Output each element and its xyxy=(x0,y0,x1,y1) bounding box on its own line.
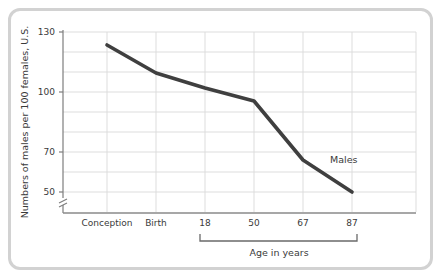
y-axis-title: Numbers of males per 100 females, U.S. xyxy=(19,26,30,219)
xtick-label-conception: Conception xyxy=(82,218,133,228)
ytick-label-50: 50 xyxy=(44,187,56,197)
ytick-label-100: 100 xyxy=(38,87,55,97)
series-label-males: Males xyxy=(330,154,358,165)
age-range-bracket xyxy=(200,234,357,241)
horizontal-gridlines xyxy=(63,32,416,192)
xtick-label-67: 67 xyxy=(297,218,308,228)
x-axis-title: Age in years xyxy=(249,247,308,258)
vertical-gridlines xyxy=(107,32,416,212)
ytick-label-70: 70 xyxy=(44,147,56,157)
xtick-label-18: 18 xyxy=(199,218,211,228)
series-line-males xyxy=(107,45,352,192)
xtick-label-87: 87 xyxy=(346,218,357,228)
xtick-label-50: 50 xyxy=(248,218,260,228)
ytick-label-130: 130 xyxy=(38,27,55,37)
line-chart: 130 100 70 50 Numbers of males per 100 f… xyxy=(0,0,441,278)
xtick-label-birth: Birth xyxy=(145,218,167,228)
